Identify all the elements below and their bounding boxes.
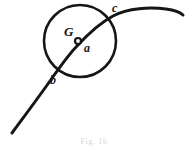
label-intersection-c: c	[112, 2, 117, 14]
label-circle-G: G	[64, 25, 73, 38]
label-intersection-b: b	[50, 74, 56, 86]
secant-curve	[12, 8, 183, 133]
label-center-a: a	[84, 42, 90, 54]
center-point-a	[75, 38, 81, 44]
diagram-canvas	[0, 0, 188, 148]
figure-caption: Fig. 16	[0, 137, 188, 146]
figure-diagram: G a c b Fig. 16	[0, 0, 188, 148]
